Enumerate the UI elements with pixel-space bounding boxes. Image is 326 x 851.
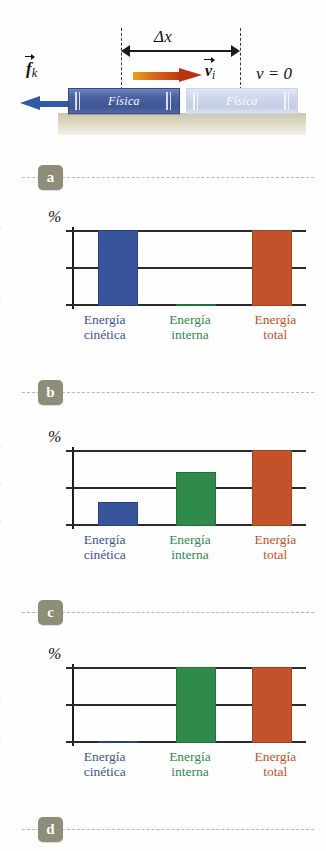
y-axis-unit-label: %: [48, 645, 61, 663]
chart-panel-a: % 100 50 0 Energía cinética Energía inte…: [0, 208, 326, 358]
bar-kinetic: [98, 230, 138, 306]
x-label-total: Energía total: [233, 532, 318, 562]
x-label-internal: Energía interna: [147, 749, 232, 779]
x-label-line2: cinética: [62, 764, 147, 779]
displacement-label-text: Δx: [149, 27, 177, 46]
ground-surface: [58, 113, 306, 135]
x-label-total: Energía total: [233, 749, 318, 779]
x-label-kinetic: Energía cinética: [62, 532, 147, 562]
x-axis-labels: Energía cinética Energía interna Energía…: [62, 532, 318, 562]
friction-symbol-letter: f: [26, 59, 32, 78]
x-label-line2: total: [233, 764, 318, 779]
velocity-arrow-head: [179, 68, 202, 82]
divider-line: [22, 392, 314, 393]
plot-area: 100 50 0: [72, 450, 306, 526]
x-label-kinetic: Energía cinética: [62, 312, 147, 342]
bar-total: [252, 450, 292, 526]
divider-line: [22, 177, 314, 178]
book-initial-position: Física: [186, 88, 298, 114]
scene-diagram: Δx vi v = 0 fk Física Física: [0, 0, 326, 155]
x-label-line2: cinética: [62, 547, 147, 562]
book-title-text: Física: [226, 94, 258, 109]
bar-kinetic: [98, 502, 138, 526]
friction-symbol-subscript: k: [32, 66, 37, 80]
bar-kinetic: [98, 741, 138, 743]
x-label-line1: Energía: [147, 312, 232, 327]
vector-arrow-accent-icon: [25, 53, 35, 59]
x-label-internal: Energía interna: [147, 532, 232, 562]
x-label-line2: total: [233, 327, 318, 342]
bar-total: [252, 667, 292, 743]
panel-divider-c: c: [22, 598, 314, 628]
final-velocity-label: v = 0: [256, 64, 292, 84]
x-axis-labels: Energía cinética Energía interna Energía…: [62, 312, 318, 342]
panel-divider-d: d: [22, 815, 314, 845]
book-title-text: Física: [108, 94, 140, 109]
panel-divider-a: a: [22, 163, 314, 193]
dimension-bar: [128, 50, 233, 52]
bar-internal: [176, 304, 216, 306]
x-label-internal: Energía interna: [147, 312, 232, 342]
y-axis-unit-label: %: [48, 428, 61, 446]
y-axis-unit-label: %: [48, 208, 61, 226]
book-page-edge-right-icon: [165, 92, 174, 110]
friction-force-arrow-icon: [20, 96, 72, 111]
x-label-line2: interna: [147, 764, 232, 779]
x-label-line1: Energía: [233, 749, 318, 764]
panel-badge-a: a: [38, 165, 63, 190]
initial-velocity-label: vi: [205, 62, 215, 81]
panel-divider-b: b: [22, 378, 314, 408]
velocity-arrow-icon: [133, 69, 202, 82]
velocity-symbol-letter: v: [205, 62, 212, 79]
velocity-vector-symbol: v: [205, 62, 212, 80]
x-label-line1: Energía: [233, 532, 318, 547]
x-label-line1: Energía: [147, 749, 232, 764]
bar-total: [252, 230, 292, 306]
x-label-line1: Energía: [62, 312, 147, 327]
displacement-label: Δx: [0, 27, 326, 47]
x-axis-labels: Energía cinética Energía interna Energía…: [62, 749, 318, 779]
divider-line: [22, 612, 314, 613]
plot-area: 100 50 0: [72, 230, 306, 306]
x-label-total: Energía total: [233, 312, 318, 342]
velocity-arrow-shaft: [133, 72, 181, 80]
x-label-line1: Energía: [233, 312, 318, 327]
x-label-line2: cinética: [62, 327, 147, 342]
x-label-kinetic: Energía cinética: [62, 749, 147, 779]
panel-badge-b: b: [38, 380, 63, 405]
plot-area: 100 50 0: [72, 667, 306, 743]
friction-force-label: fk: [26, 59, 37, 81]
friction-vector-symbol: f: [26, 59, 32, 79]
x-label-line2: total: [233, 547, 318, 562]
book-page-edge-left-icon: [74, 92, 83, 110]
chart-panel-c: % 100 50 0 Energía cinética Energía inte…: [0, 645, 326, 795]
chart-panel-b: % 100 50 0 Energía cinética Energía inte…: [0, 428, 326, 578]
x-label-line1: Energía: [62, 749, 147, 764]
friction-arrow-shaft: [36, 101, 72, 108]
x-label-line2: interna: [147, 547, 232, 562]
x-label-line1: Energía: [62, 532, 147, 547]
panel-badge-d: d: [38, 817, 63, 842]
velocity-symbol-subscript: i: [212, 69, 215, 81]
book-final-position: Física: [68, 88, 180, 114]
book-page-edge-left-icon: [192, 92, 201, 110]
divider-line: [22, 829, 314, 830]
book-page-edge-right-icon: [283, 92, 292, 110]
bar-internal: [176, 472, 216, 526]
x-label-line2: interna: [147, 327, 232, 342]
bar-internal: [176, 667, 216, 743]
x-label-line1: Energía: [147, 532, 232, 547]
panel-badge-c: c: [38, 600, 63, 625]
vector-arrow-accent-icon: [204, 56, 215, 62]
